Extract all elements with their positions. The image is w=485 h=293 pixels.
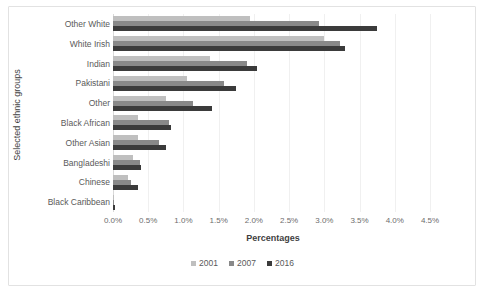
bar-2016 (113, 86, 236, 91)
bar-group (113, 113, 430, 133)
y-axis-label-white-irish: White Irish (30, 39, 110, 49)
y-axis-label-other-asian: Other Asian (30, 138, 110, 148)
bar-group (113, 192, 430, 212)
y-axis-label-black-caribbean: Black Caribbean (30, 197, 110, 207)
gridline (430, 14, 431, 212)
legend-item-2001[interactable]: 2001 (191, 258, 218, 268)
legend-swatch-icon (191, 261, 196, 266)
bar-group (113, 93, 430, 113)
legend-label: 2016 (275, 258, 294, 268)
bar-groups (113, 14, 430, 212)
bar-group (113, 133, 430, 153)
legend-item-2007[interactable]: 2007 (229, 258, 256, 268)
bar-2016 (113, 185, 138, 190)
bar-group (113, 34, 430, 54)
y-axis-title-text: Selected ethnic groups (12, 50, 22, 180)
x-axis-title: Percentages (113, 233, 433, 243)
bar-group (113, 172, 430, 192)
x-axis-tick-labels: 0.0%0.5%1.0%1.5%2.0%2.5%3.0%3.5%4.0%4.5% (113, 216, 433, 230)
y-axis-label-chinese: Chinese (30, 177, 110, 187)
x-axis-tick: 4.0% (375, 216, 415, 225)
y-axis-label-black-african: Black African (30, 118, 110, 128)
y-axis-title: Selected ethnic groups (12, 0, 22, 50)
bar-2016 (113, 26, 377, 31)
y-axis-label-indian: Indian (30, 59, 110, 69)
legend-label: 2001 (199, 258, 218, 268)
bar-group (113, 14, 430, 34)
plot-area (113, 14, 430, 212)
chart-container: Selected ethnic groups Other WhiteWhite … (0, 0, 485, 293)
bar-2016 (113, 145, 166, 150)
bar-2016 (113, 106, 212, 111)
chart-legend: 200120072016 (0, 258, 485, 268)
y-axis-tick-labels: Other WhiteWhite IrishIndianPakistaniOth… (30, 14, 110, 212)
bar-group (113, 153, 430, 173)
x-axis-tick: 2.0% (234, 216, 274, 225)
x-axis-tick: 0.5% (128, 216, 168, 225)
y-axis-label-other: Other (30, 98, 110, 108)
bar-group (113, 73, 430, 93)
x-axis-tick: 3.0% (304, 216, 344, 225)
bar-group (113, 54, 430, 74)
x-axis-tick: 3.5% (340, 216, 380, 225)
x-axis-tick: 1.0% (163, 216, 203, 225)
bar-2016 (113, 165, 141, 170)
x-axis-tick: 0.0% (93, 216, 133, 225)
x-axis-tick: 2.5% (269, 216, 309, 225)
y-axis-label-other-white: Other White (30, 19, 110, 29)
x-axis-tick: 1.5% (199, 216, 239, 225)
bar-2016 (113, 66, 257, 71)
legend-item-2016[interactable]: 2016 (267, 258, 294, 268)
legend-swatch-icon (267, 261, 272, 266)
legend-label: 2007 (237, 258, 256, 268)
bar-2016 (113, 46, 345, 51)
y-axis-label-pakistani: Pakistani (30, 78, 110, 88)
bar-2016 (113, 205, 115, 210)
bar-2016 (113, 125, 171, 130)
legend-swatch-icon (229, 261, 234, 266)
x-axis-tick: 4.5% (410, 216, 450, 225)
y-axis-label-bangladeshi: Bangladeshi (30, 158, 110, 168)
